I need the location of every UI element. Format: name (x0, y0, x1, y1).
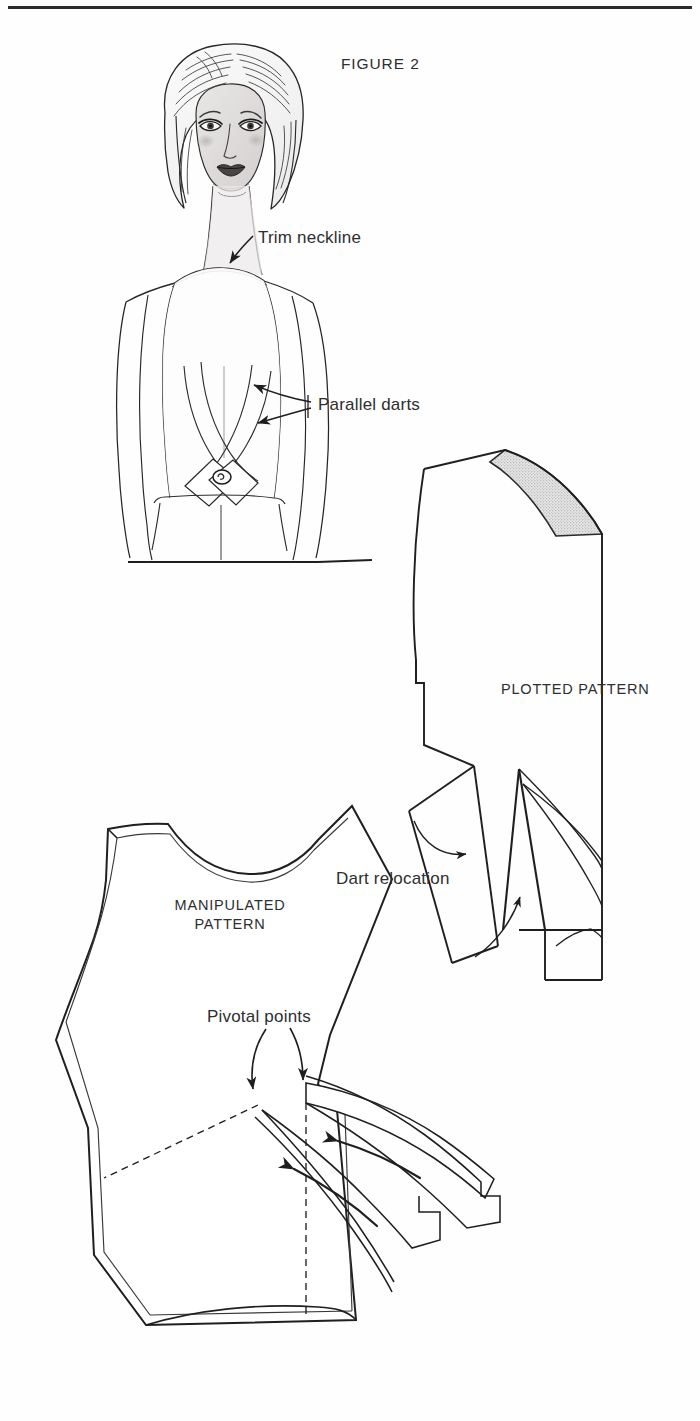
label-manipulated-pattern-line1: MANIPULATED (161, 897, 299, 913)
figure-illustration (0, 0, 700, 1421)
callout-parallel-darts: Parallel darts (318, 395, 420, 414)
face (196, 84, 265, 191)
croquis-figure (117, 44, 372, 562)
figure-label: FIGURE 2 (341, 55, 420, 72)
bodice (117, 268, 372, 562)
figure-page: FIGURE 2 Trim neckline Parallel darts PL… (0, 0, 700, 1421)
callout-pivotal-points: Pivotal points (207, 1007, 311, 1026)
label-plotted-pattern: PLOTTED PATTERN (501, 681, 649, 697)
neck (203, 186, 262, 275)
plotted-pattern-piece (409, 450, 602, 980)
callout-dart-relocation: Dart relocation (336, 869, 450, 888)
dart-relocation-arrows (414, 821, 520, 957)
label-manipulated-pattern-line2: PATTERN (161, 916, 299, 932)
callout-trim-neckline: Trim neckline (258, 228, 361, 247)
